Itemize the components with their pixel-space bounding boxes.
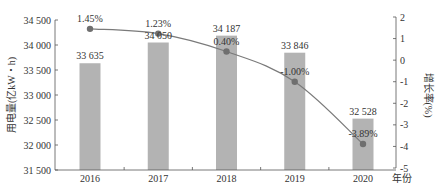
- right-tick-label: -1: [400, 76, 408, 87]
- growth-value-label: 1.45%: [77, 13, 103, 24]
- bar-2016: [80, 63, 101, 170]
- left-tick-label: 32 500: [24, 115, 52, 126]
- growth-point-2019: [292, 79, 298, 85]
- growth-value-label: -3.89%: [348, 128, 377, 139]
- right-tick-label: 2: [400, 12, 405, 23]
- bars-layer: [80, 36, 374, 170]
- right-tick-label: -3: [400, 119, 408, 130]
- bar-value-label: 33 846: [281, 40, 309, 51]
- chart: 31 50032 00032 50033 00033 50034 00034 5…: [0, 0, 437, 195]
- bar-value-label: 34 187: [213, 23, 241, 34]
- x-tick-label: 2018: [217, 173, 237, 184]
- left-tick-label: 34 000: [24, 40, 52, 51]
- x-axis-title: 年份: [392, 172, 412, 184]
- x-tick-label: 2020: [353, 173, 373, 184]
- bar-2018: [216, 36, 237, 170]
- left-tick-label: 31 500: [24, 165, 52, 176]
- bar-2017: [148, 43, 169, 171]
- bar-value-label: 33 635: [76, 50, 104, 61]
- x-tick-label: 2017: [148, 173, 168, 184]
- bar-value-label: 32 528: [349, 106, 377, 117]
- left-tick-label: 34 500: [24, 15, 52, 26]
- left-tick-label: 33 000: [24, 90, 52, 101]
- right-axis-title: 增长率(%): [422, 73, 435, 118]
- right-tick-label: -5: [400, 163, 408, 174]
- bar-value-label: 34 050: [145, 30, 173, 41]
- right-tick-label: 0: [400, 55, 405, 66]
- growth-point-2018: [223, 48, 229, 54]
- growth-value-label: -1.00%: [280, 66, 309, 77]
- growth-value-label: 1.23%: [145, 18, 171, 29]
- right-tick-label: -4: [400, 141, 408, 152]
- x-tick-label: 2019: [285, 173, 305, 184]
- left-tick-label: 33 500: [24, 65, 52, 76]
- left-tick-label: 32 000: [24, 140, 52, 151]
- growth-value-label: 0.40%: [214, 36, 240, 47]
- left-axis-title: 用电量(亿kW・h): [5, 57, 18, 133]
- x-tick-label: 2016: [80, 173, 100, 184]
- right-tick-label: 1: [400, 33, 405, 44]
- growth-point-2020: [360, 141, 366, 147]
- growth-point-2016: [87, 26, 93, 32]
- right-tick-label: -2: [400, 98, 408, 109]
